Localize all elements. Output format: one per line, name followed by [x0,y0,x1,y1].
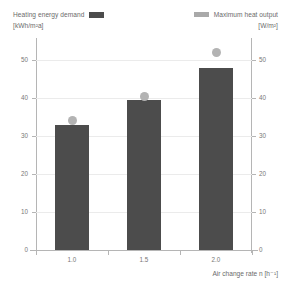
x-axis-title: Air change rate n [h⁻¹] [212,270,278,278]
x-axis-tick [108,251,109,255]
y-axis-right-tick-label: 30 [259,132,266,139]
legend-units-maximum-heat-output: [W/m²] [194,21,278,31]
y-axis-right-tick-label: 0 [259,246,263,253]
legend-label-maximum-heat-output: Maximum heat output [214,10,278,20]
dot-maximum-heat-output [140,92,149,101]
y-axis-left-tick-label: 10 [8,208,28,215]
y-axis-right-tick-label: 10 [259,208,266,215]
legend-units-heating-energy-demand: [kWh/m²a] [13,21,104,31]
legend-swatch-bar-icon [89,12,104,18]
bar-heating-energy-demand [55,125,89,250]
x-axis-tick-label: 2.0 [196,256,236,263]
y-axis-right-tick [252,212,256,213]
y-axis-left-tick [32,98,36,99]
y-axis-left-tick-label: 50 [8,56,28,63]
y-axis-right-tick [252,98,256,99]
chart-legend: Heating energy demand [kWh/m²a] Maximum … [0,10,288,40]
y-axis-right-tick-label: 50 [259,56,266,63]
x-axis-line [30,250,258,251]
bar-heating-energy-demand [199,68,233,250]
y-axis-left-tick [32,212,36,213]
y-axis-left-tick-label: 30 [8,132,28,139]
x-axis-tick-label: 1.5 [124,256,164,263]
y-axis-right-tick [252,136,256,137]
legend-label-heating-energy-demand: Heating energy demand [13,10,84,20]
y-axis-left-tick-label: 40 [8,94,28,101]
y-axis-left-tick [32,174,36,175]
y-axis-right-tick-label: 20 [259,170,266,177]
y-axis-right-tick-label: 40 [259,94,266,101]
y-axis-right-tick [252,60,256,61]
y-axis-left-tick [32,136,36,137]
x-axis-tick [252,251,253,255]
legend-swatch-dot-icon [194,12,209,17]
x-axis-tick-label: 1.0 [52,256,92,263]
bar-heating-energy-demand [127,100,161,250]
y-axis-left-tick [32,60,36,61]
y-axis-left-tick-label: 20 [8,170,28,177]
dot-maximum-heat-output [68,116,77,125]
chart-figure: Heating energy demand [kWh/m²a] Maximum … [0,0,288,293]
x-axis-tick [36,251,37,255]
plot-area [36,41,252,250]
legend-entry-maximum-heat-output: Maximum heat output [W/m²] [194,10,278,30]
gridline [36,60,252,61]
y-axis-left-tick-label: 0 [8,246,28,253]
x-axis-tick [180,251,181,255]
legend-entry-heating-energy-demand: Heating energy demand [kWh/m²a] [13,10,104,30]
y-axis-right-tick [252,174,256,175]
dot-maximum-heat-output [212,48,221,57]
